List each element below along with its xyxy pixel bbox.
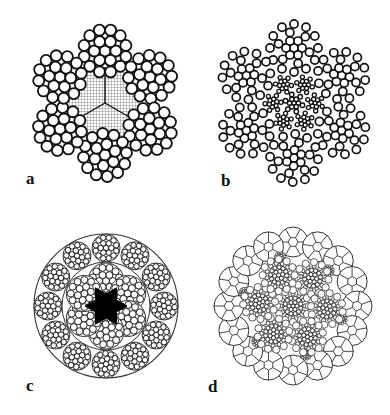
strand	[123, 102, 176, 155]
strand	[78, 128, 132, 182]
wire-rope-figure	[0, 0, 390, 415]
panel-label-b: b	[221, 172, 230, 189]
strand	[33, 50, 87, 104]
panel-d-diagram	[214, 227, 372, 385]
strand	[266, 20, 322, 76]
strand	[219, 103, 274, 158]
strand	[33, 102, 87, 156]
strand	[218, 48, 274, 104]
strand	[314, 103, 370, 159]
panel-c-diagram	[34, 234, 178, 378]
panel-label-a: a	[26, 170, 35, 187]
strand	[314, 48, 369, 103]
panel-label-d: d	[208, 378, 217, 395]
panel-a-diagram	[33, 25, 177, 182]
strand	[79, 25, 132, 78]
panel-label-c: c	[26, 377, 34, 394]
inner-strand	[288, 318, 326, 356]
strand	[266, 130, 322, 186]
panel-b-diagram	[218, 20, 369, 186]
